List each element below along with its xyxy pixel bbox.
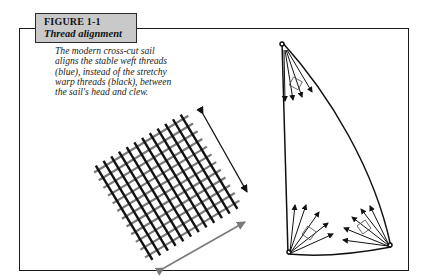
figure-title: Thread alignment xyxy=(44,28,136,40)
sail-foot xyxy=(288,247,391,255)
tack-stress-fan xyxy=(290,205,333,253)
figure-number: FIGURE 1-1 xyxy=(44,16,136,28)
head-stress-fan xyxy=(284,50,312,101)
sail-luff xyxy=(282,42,288,254)
thread-grid xyxy=(92,112,243,263)
weft-threads xyxy=(94,116,239,258)
figure-header: FIGURE 1-1 Thread alignment xyxy=(35,13,137,43)
sail-diagram xyxy=(280,42,392,255)
